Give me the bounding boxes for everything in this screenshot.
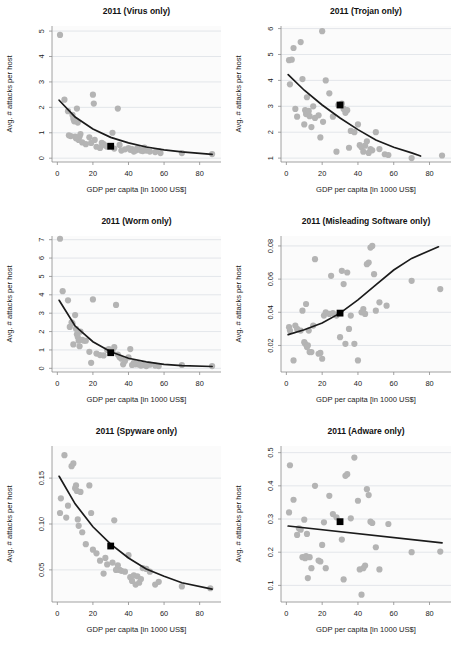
data-point bbox=[77, 489, 83, 495]
data-point bbox=[102, 555, 108, 561]
data-point bbox=[77, 131, 83, 137]
panel-spyware-svg: 2011 (Spyware only)0.050.100.15020406080… bbox=[0, 420, 229, 650]
data-point bbox=[409, 549, 415, 555]
x-tick-label: 60 bbox=[160, 169, 168, 178]
mean-marker bbox=[337, 518, 344, 525]
data-point bbox=[299, 308, 305, 314]
data-point bbox=[292, 106, 298, 112]
data-point bbox=[138, 576, 144, 582]
data-point bbox=[308, 349, 314, 355]
data-point bbox=[290, 357, 296, 363]
data-point bbox=[147, 148, 153, 154]
panel-worm-svg: 2011 (Worm only)01234567020406080GDP per… bbox=[0, 210, 229, 420]
panel-adware-svg: 2011 (Adware only)0.10.20.30.40.50204060… bbox=[229, 420, 459, 650]
x-tick-label: 20 bbox=[318, 169, 326, 178]
x-tick-label: 80 bbox=[425, 169, 433, 178]
data-point bbox=[100, 570, 106, 576]
y-tick-label: 0 bbox=[37, 156, 46, 160]
data-point bbox=[369, 243, 375, 249]
data-point bbox=[376, 299, 382, 305]
data-point bbox=[307, 554, 313, 560]
x-tick-label: 40 bbox=[124, 169, 132, 178]
data-point bbox=[83, 338, 89, 344]
x-axis-label: GDP per capita [in 1000 US$] bbox=[316, 395, 416, 404]
data-point bbox=[57, 510, 63, 516]
data-point bbox=[319, 356, 325, 362]
mean-marker bbox=[107, 543, 114, 550]
y-tick-label: 6 bbox=[37, 256, 46, 260]
y-tick-label: 2 bbox=[266, 130, 275, 134]
panel-trojan: 2011 (Trojan only)123456020406080GDP per… bbox=[229, 0, 459, 210]
data-point bbox=[301, 517, 307, 523]
data-point bbox=[373, 544, 379, 550]
data-point bbox=[75, 516, 81, 522]
data-point bbox=[88, 360, 94, 366]
data-point bbox=[358, 592, 364, 598]
panel-worm: 2011 (Worm only)01234567020406080GDP per… bbox=[0, 210, 229, 420]
data-point bbox=[65, 503, 71, 509]
x-tick-label: 40 bbox=[354, 169, 362, 178]
data-point bbox=[86, 349, 92, 355]
data-point bbox=[385, 521, 391, 527]
data-point bbox=[319, 28, 325, 34]
data-point bbox=[72, 312, 78, 318]
y-tick-label: 4 bbox=[266, 78, 275, 82]
data-point bbox=[326, 493, 332, 499]
data-point bbox=[376, 146, 382, 152]
y-tick-label: 0.3 bbox=[266, 514, 275, 524]
data-point bbox=[298, 39, 304, 45]
y-tick-label: 0.05 bbox=[37, 563, 46, 577]
x-tick-label: 80 bbox=[196, 379, 204, 388]
plot-background bbox=[52, 236, 221, 372]
y-tick-label: 2 bbox=[37, 330, 46, 334]
x-tick-label: 0 bbox=[55, 169, 59, 178]
data-point bbox=[339, 537, 345, 543]
data-point bbox=[312, 256, 318, 262]
data-point bbox=[109, 559, 115, 565]
data-point bbox=[312, 483, 318, 489]
y-tick-label: 5 bbox=[37, 29, 46, 33]
data-point bbox=[97, 558, 103, 564]
x-tick-label: 40 bbox=[124, 609, 132, 618]
data-point bbox=[301, 121, 307, 127]
data-point bbox=[90, 92, 96, 98]
data-point bbox=[91, 100, 97, 106]
y-tick-label: 3 bbox=[37, 80, 46, 84]
data-point bbox=[307, 113, 313, 119]
data-point bbox=[310, 103, 316, 109]
panel-virus: 2011 (Virus only)012345020406080GDP per … bbox=[0, 0, 229, 210]
panel-title: 2011 (Adware only) bbox=[327, 426, 404, 436]
data-point bbox=[117, 142, 123, 148]
data-point bbox=[63, 514, 69, 520]
y-tick-label: 7 bbox=[37, 238, 46, 242]
x-tick-label: 80 bbox=[425, 609, 433, 618]
data-point bbox=[60, 288, 66, 294]
x-axis-label: GDP per capita [in 1000 US$] bbox=[87, 395, 187, 404]
panel-title: 2011 (Misleading Software only) bbox=[302, 216, 431, 226]
panel-spyware: 2011 (Spyware only)0.050.100.15020406080… bbox=[0, 420, 229, 650]
data-point bbox=[339, 268, 345, 274]
data-point bbox=[113, 302, 119, 308]
y-tick-label: 3 bbox=[37, 311, 46, 315]
panel-adware: 2011 (Adware only)0.10.20.30.40.50204060… bbox=[229, 420, 459, 650]
data-point bbox=[333, 149, 339, 155]
data-point bbox=[57, 236, 63, 242]
data-point bbox=[104, 561, 110, 567]
data-point bbox=[366, 259, 372, 265]
panel-virus-svg: 2011 (Virus only)012345020406080GDP per … bbox=[0, 0, 229, 210]
y-tick-label: 5 bbox=[266, 52, 275, 56]
data-point bbox=[409, 278, 415, 284]
y-tick-label: 3 bbox=[266, 104, 275, 108]
data-point bbox=[111, 517, 117, 523]
data-point bbox=[304, 531, 310, 537]
x-tick-label: 20 bbox=[318, 379, 326, 388]
y-tick-label: 0.10 bbox=[37, 517, 46, 531]
data-point bbox=[73, 482, 79, 488]
data-point bbox=[328, 273, 334, 279]
data-point bbox=[61, 452, 67, 458]
y-tick-label: 0.04 bbox=[266, 305, 275, 319]
data-point bbox=[342, 341, 348, 347]
x-tick-label: 60 bbox=[390, 609, 398, 618]
y-tick-label: 1 bbox=[37, 348, 46, 352]
x-tick-label: 80 bbox=[425, 379, 433, 388]
